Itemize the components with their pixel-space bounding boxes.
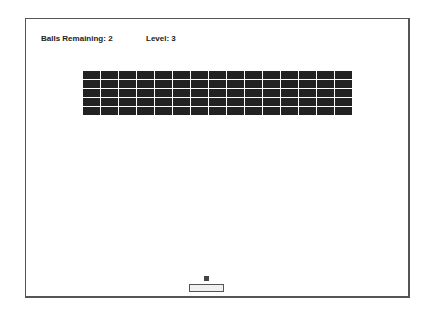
brick — [101, 71, 118, 79]
brick — [209, 80, 226, 88]
brick — [299, 89, 316, 97]
brick — [173, 71, 190, 79]
brick — [173, 98, 190, 106]
brick — [299, 71, 316, 79]
brick — [281, 80, 298, 88]
brick — [101, 80, 118, 88]
brick — [299, 107, 316, 115]
brick — [281, 98, 298, 106]
brick — [281, 89, 298, 97]
brick — [191, 98, 208, 106]
brick — [83, 98, 100, 106]
brick — [245, 89, 262, 97]
game-field[interactable] — [25, 18, 410, 298]
brick — [335, 89, 352, 97]
brick — [101, 89, 118, 97]
brick — [335, 98, 352, 106]
brick — [227, 107, 244, 115]
brick — [137, 107, 154, 115]
brick — [119, 80, 136, 88]
brick — [83, 71, 100, 79]
brick — [173, 107, 190, 115]
brick — [245, 107, 262, 115]
brick — [317, 98, 334, 106]
brick — [137, 89, 154, 97]
brick — [101, 107, 118, 115]
brick — [299, 80, 316, 88]
balls-remaining-label: Balls Remaining: 2 — [41, 34, 113, 43]
brick-wall — [83, 71, 352, 115]
brick — [155, 89, 172, 97]
ball — [204, 276, 209, 281]
brick — [317, 89, 334, 97]
brick — [191, 107, 208, 115]
brick — [83, 89, 100, 97]
brick — [191, 80, 208, 88]
brick — [155, 80, 172, 88]
brick — [155, 98, 172, 106]
brick — [209, 107, 226, 115]
brick — [83, 107, 100, 115]
brick — [227, 89, 244, 97]
brick — [137, 98, 154, 106]
brick — [263, 107, 280, 115]
brick — [263, 98, 280, 106]
brick — [317, 80, 334, 88]
brick — [101, 98, 118, 106]
brick — [263, 71, 280, 79]
brick — [299, 98, 316, 106]
brick — [227, 71, 244, 79]
brick — [137, 80, 154, 88]
brick — [245, 71, 262, 79]
brick — [317, 71, 334, 79]
paddle[interactable] — [189, 284, 224, 292]
brick — [281, 71, 298, 79]
brick — [137, 71, 154, 79]
brick — [335, 80, 352, 88]
brick — [227, 80, 244, 88]
brick — [263, 89, 280, 97]
brick — [173, 80, 190, 88]
brick — [335, 71, 352, 79]
brick — [209, 89, 226, 97]
brick — [245, 98, 262, 106]
brick — [119, 71, 136, 79]
brick — [191, 89, 208, 97]
brick — [119, 107, 136, 115]
brick — [83, 80, 100, 88]
level-label: Level: 3 — [146, 34, 176, 43]
brick — [263, 80, 280, 88]
brick — [173, 89, 190, 97]
brick — [281, 107, 298, 115]
brick — [317, 107, 334, 115]
brick — [335, 107, 352, 115]
brick — [119, 89, 136, 97]
brick — [209, 98, 226, 106]
brick — [209, 71, 226, 79]
brick — [119, 98, 136, 106]
brick — [155, 71, 172, 79]
brick — [155, 107, 172, 115]
brick — [191, 71, 208, 79]
brick — [227, 98, 244, 106]
brick — [245, 80, 262, 88]
